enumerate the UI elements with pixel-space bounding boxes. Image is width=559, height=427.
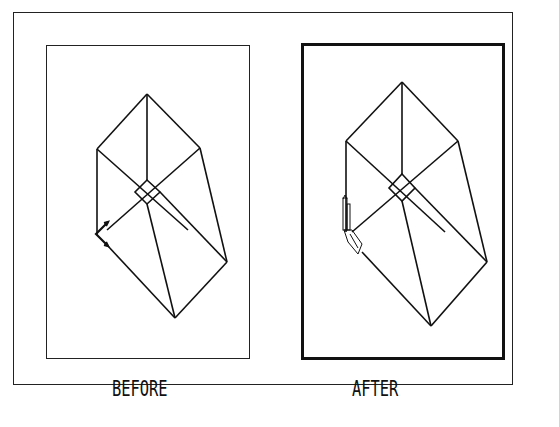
- after-caption: AFTER: [352, 376, 398, 401]
- wireframe-drawing: [0, 0, 559, 427]
- before-caption: BEFORE: [112, 376, 168, 401]
- before-wireframe-box: [97, 94, 227, 318]
- after-wireframe-box: [346, 82, 487, 326]
- before-ucs-icon: [96, 222, 108, 246]
